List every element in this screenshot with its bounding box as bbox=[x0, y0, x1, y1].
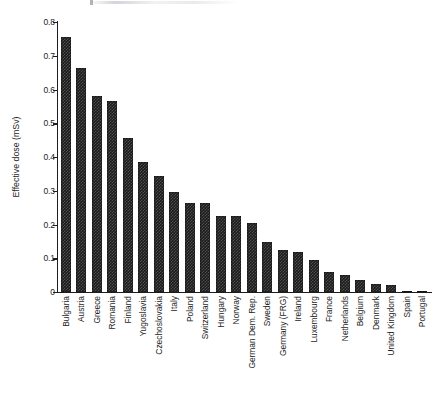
y-axis-tick-label: 0.5 bbox=[43, 119, 55, 128]
bar bbox=[324, 272, 334, 292]
y-axis-tick-label: 0.8 bbox=[43, 18, 55, 27]
bar-slot bbox=[371, 22, 381, 292]
x-axis-tick-label: Bulgaria bbox=[62, 296, 70, 327]
bar-slot bbox=[61, 22, 71, 292]
bar bbox=[231, 216, 241, 292]
x-axis-tick-label: German Dem. Rep. bbox=[248, 296, 256, 369]
x-axis-tick-label: Portugal bbox=[418, 296, 426, 327]
bar bbox=[340, 275, 350, 292]
y-axis-title: Effective dose (mSv) bbox=[11, 117, 21, 198]
x-axis-tick-label: Spain bbox=[403, 296, 411, 317]
x-axis-tick-label: Czechoslovakia bbox=[155, 296, 163, 355]
x-axis-tick-label: Austria bbox=[77, 296, 85, 322]
x-axis-tick-label: Greece bbox=[93, 296, 101, 323]
bar bbox=[386, 285, 396, 292]
bar-slot bbox=[154, 22, 164, 292]
bar-slot bbox=[402, 22, 412, 292]
bar bbox=[262, 242, 272, 292]
x-axis-tick-label: United Kingdom bbox=[387, 296, 395, 356]
bar bbox=[169, 192, 179, 292]
bar bbox=[92, 96, 102, 292]
bar bbox=[309, 260, 319, 292]
bar-slot bbox=[355, 22, 365, 292]
y-axis-tick-label: 0 bbox=[50, 288, 55, 297]
bar bbox=[293, 252, 303, 292]
x-axis-tick-label: Luxembourg bbox=[310, 296, 318, 343]
bar bbox=[200, 203, 210, 292]
scan-artifact-mark bbox=[90, 0, 93, 5]
x-axis-tick-label: Netherlands bbox=[341, 296, 349, 341]
bar-slot bbox=[138, 22, 148, 292]
bar-slot bbox=[169, 22, 179, 292]
bar bbox=[216, 216, 226, 292]
y-axis-tick-label: 0.2 bbox=[43, 220, 55, 229]
y-axis-tick-label: 0.6 bbox=[43, 85, 55, 94]
bar bbox=[355, 280, 365, 292]
bar-slot bbox=[417, 22, 427, 292]
plot-area: 00.10.20.30.40.50.60.70.8 bbox=[58, 22, 430, 292]
bar-slot bbox=[262, 22, 272, 292]
bar bbox=[185, 203, 195, 292]
y-axis-tick-label: 0.4 bbox=[43, 153, 55, 162]
bar bbox=[61, 37, 71, 292]
bar-slot bbox=[293, 22, 303, 292]
bar-slot bbox=[76, 22, 86, 292]
bar-slot bbox=[386, 22, 396, 292]
scan-artifact bbox=[88, 1, 238, 4]
bar-slot bbox=[231, 22, 241, 292]
x-axis-tick-label: Belgium bbox=[356, 296, 364, 326]
x-axis-tick-label: Hungary bbox=[217, 296, 225, 328]
bar bbox=[138, 162, 148, 292]
bar-slot bbox=[278, 22, 288, 292]
bar-slot bbox=[309, 22, 319, 292]
bar-slot bbox=[200, 22, 210, 292]
bar-slot bbox=[247, 22, 257, 292]
bar-slot bbox=[92, 22, 102, 292]
bar-series bbox=[58, 22, 430, 292]
x-axis-tick-label: Sweden bbox=[263, 296, 271, 326]
bar bbox=[371, 284, 381, 292]
x-axis-line bbox=[57, 292, 432, 293]
bar bbox=[417, 291, 427, 292]
bar bbox=[247, 223, 257, 292]
y-axis-tick-label: 0.7 bbox=[43, 52, 55, 61]
x-axis-tick-label: Switzerland bbox=[201, 296, 209, 339]
x-axis-tick-label: Norway bbox=[232, 296, 240, 324]
bar bbox=[278, 250, 288, 292]
bar bbox=[123, 138, 133, 292]
x-axis-tick-labels: BulgariaAustriaGreeceRomaniaFinlandYugos… bbox=[58, 296, 430, 404]
x-axis-tick-label: Yugoslavia bbox=[139, 296, 147, 337]
bar bbox=[76, 68, 86, 292]
bar-chart-figure: Effective dose (mSv) 00.10.20.30.40.50.6… bbox=[0, 0, 440, 405]
y-axis-tick-label: 0.3 bbox=[43, 187, 55, 196]
x-axis-tick-label: Denmark bbox=[372, 296, 380, 330]
x-axis-tick-label: Germany (FRG) bbox=[279, 296, 287, 356]
x-axis-tick-label: Finland bbox=[124, 296, 132, 323]
x-axis-tick-label: Romania bbox=[108, 296, 116, 330]
x-axis-tick-label: France bbox=[325, 296, 333, 322]
bar bbox=[154, 176, 164, 292]
bar-slot bbox=[185, 22, 195, 292]
bar-slot bbox=[216, 22, 226, 292]
bar-slot bbox=[107, 22, 117, 292]
x-axis-tick-label: Italy bbox=[170, 296, 178, 311]
y-axis-tick-label: 0.1 bbox=[43, 254, 55, 263]
x-axis-tick-label: Ireland bbox=[294, 296, 302, 322]
bar bbox=[402, 291, 412, 292]
bar-slot bbox=[123, 22, 133, 292]
bar-slot bbox=[340, 22, 350, 292]
x-axis-tick-label: Poland bbox=[186, 296, 194, 322]
bar-slot bbox=[324, 22, 334, 292]
bar bbox=[107, 101, 117, 292]
